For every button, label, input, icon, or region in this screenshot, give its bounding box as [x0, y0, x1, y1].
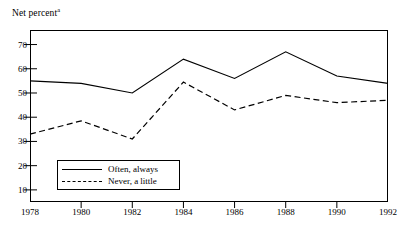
line-chart-figure: Net percenta 70605040302010 197819801982… — [0, 0, 416, 237]
legend-label-often-always: Often, always — [108, 164, 158, 174]
legend-swatch-solid-icon — [62, 165, 102, 173]
data-series-paths — [30, 52, 388, 139]
legend-label-never-a-little: Never, a little — [108, 176, 157, 186]
series-line-often-always — [30, 52, 388, 93]
chart-series-layer — [0, 0, 416, 237]
series-line-never-a-little — [30, 82, 388, 139]
legend-entry-never-a-little: Never, a little — [62, 175, 157, 187]
legend-entry-often-always: Often, always — [62, 163, 158, 175]
chart-legend: Often, always Never, a little — [57, 160, 180, 190]
legend-swatch-dashed-icon — [62, 177, 102, 185]
